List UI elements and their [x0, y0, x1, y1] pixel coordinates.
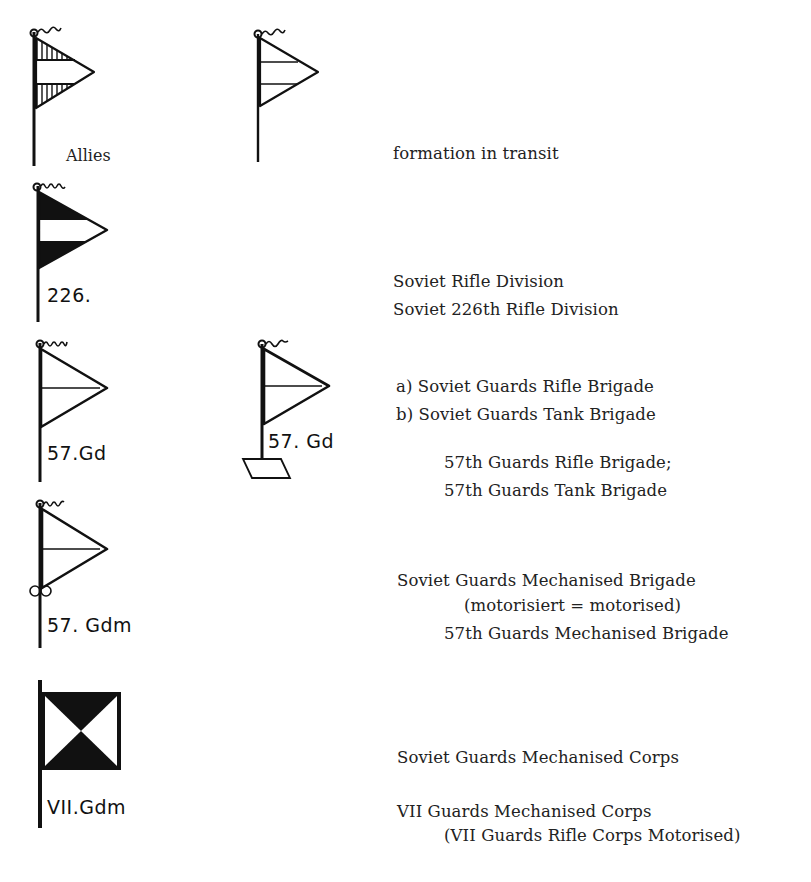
desc-transit: formation in transit: [393, 144, 559, 163]
allies-label: Allies: [66, 146, 111, 165]
guards-mech-brigade-label: 57. Gdm: [47, 614, 132, 636]
desc-57-guards-rifle-brigade: 57th Guards Rifle Brigade;: [444, 453, 672, 472]
guards-mech-corps-label: VII.Gdm: [47, 796, 126, 818]
desc-vii-guards-mech-corps: VII Guards Mechanised Corps: [397, 802, 652, 821]
rifle-division-label: 226.: [47, 284, 91, 306]
transit-flag-icon: [255, 29, 319, 162]
desc-guards-tank-brigade: b) Soviet Guards Tank Brigade: [396, 405, 656, 424]
desc-57-guards-mech-brigade: 57th Guards Mechanised Brigade: [444, 624, 729, 643]
desc-226-rifle-division: Soviet 226th Rifle Division: [393, 300, 619, 319]
desc-vii-guards-rifle-corps-motorised: (VII Guards Rifle Corps Motorised): [444, 826, 740, 845]
desc-guards-mech-brigade: Soviet Guards Mechanised Brigade: [397, 571, 696, 590]
desc-guards-mech-corps: Soviet Guards Mechanised Corps: [397, 748, 679, 767]
guards-rifle-brigade-label: 57.Gd: [47, 442, 107, 464]
desc-motorised-note: (motorisiert = motorised): [464, 596, 681, 615]
guards-tank-brigade-flag-icon: [243, 340, 329, 478]
guards-tank-brigade-label: 57. Gd: [268, 430, 334, 452]
desc-guards-rifle-brigade: a) Soviet Guards Rifle Brigade: [396, 377, 654, 396]
base-plate-icon: [243, 459, 290, 478]
desc-rifle-division: Soviet Rifle Division: [393, 272, 564, 291]
desc-57-guards-tank-brigade: 57th Guards Tank Brigade: [444, 481, 667, 500]
